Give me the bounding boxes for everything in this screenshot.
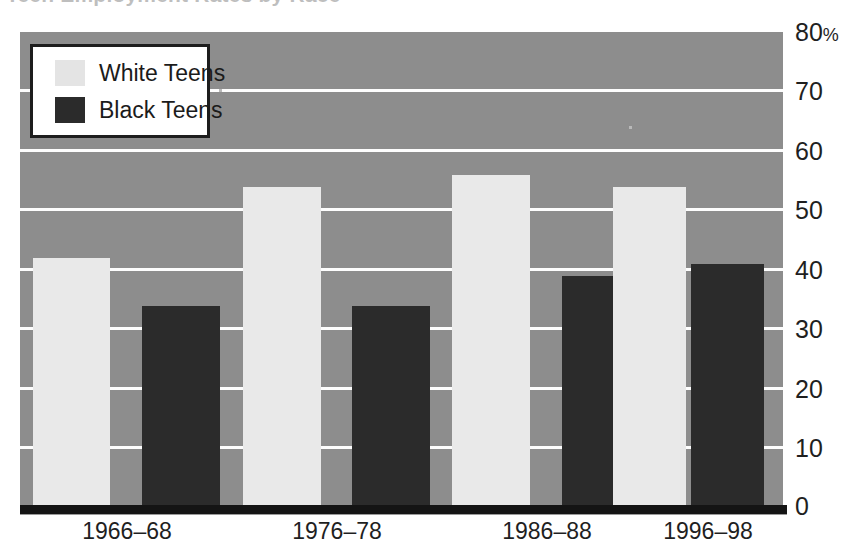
y-tick-40: 40 bbox=[795, 258, 849, 283]
y-tick-80: 80% bbox=[795, 20, 849, 48]
x-tick-1986-88: 1986–88 bbox=[457, 520, 637, 543]
scan-speck bbox=[629, 126, 632, 129]
legend-label-black-teens: Black Teens bbox=[99, 99, 223, 122]
cropped-title-strip: Teen Employment Rates by Race bbox=[0, 0, 849, 14]
bar-chart-figure: Teen Employment Rates by Race White Teen… bbox=[0, 0, 849, 546]
x-tick-1966-68: 1966–68 bbox=[37, 520, 217, 543]
x-axis-baseline bbox=[20, 505, 787, 514]
x-axis-hairline bbox=[20, 514, 787, 515]
y-tick-80-value: 80 bbox=[795, 18, 823, 46]
legend-swatch-black-teens-icon bbox=[55, 97, 85, 123]
y-tick-50: 50 bbox=[795, 198, 849, 223]
bar-white-teens-1996-98 bbox=[613, 187, 686, 508]
y-tick-10: 10 bbox=[795, 436, 849, 461]
y-tick-20: 20 bbox=[795, 377, 849, 402]
bar-white-teens-1986-88 bbox=[452, 175, 530, 508]
scan-speck bbox=[219, 89, 222, 92]
bar-white-teens-1976-78 bbox=[243, 187, 321, 508]
y-tick-60: 60 bbox=[795, 139, 849, 164]
legend-label-white-teens: White Teens bbox=[99, 62, 225, 85]
legend-entry-black-teens: Black Teens bbox=[55, 97, 223, 123]
x-tick-1976-78: 1976–78 bbox=[247, 520, 427, 543]
legend-entry-white-teens: White Teens bbox=[55, 60, 225, 86]
chart-title: Teen Employment Rates by Race bbox=[6, 0, 341, 7]
y-axis-percent-sign: % bbox=[823, 25, 839, 45]
bar-black-teens-1996-98 bbox=[691, 264, 764, 508]
x-tick-1996-98: 1996–98 bbox=[618, 520, 798, 543]
gridline-60 bbox=[20, 149, 783, 152]
legend: White Teens Black Teens bbox=[30, 44, 210, 138]
y-tick-30: 30 bbox=[795, 317, 849, 342]
bar-white-teens-1966-68 bbox=[33, 258, 110, 508]
bar-black-teens-1976-78 bbox=[352, 306, 430, 508]
plot-area: White Teens Black Teens bbox=[20, 32, 783, 508]
y-tick-0: 0 bbox=[795, 494, 849, 519]
y-tick-70: 70 bbox=[795, 79, 849, 104]
bar-black-teens-1966-68 bbox=[142, 306, 220, 508]
legend-swatch-white-teens-icon bbox=[55, 60, 85, 86]
